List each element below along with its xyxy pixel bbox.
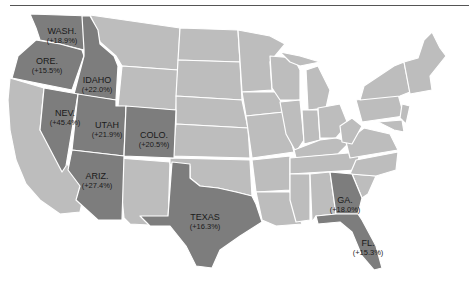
label-florida: FL. (+15.3%): [353, 238, 384, 258]
label-arizona: ARIZ. (+27.4%): [82, 171, 113, 191]
state-name: WASH.: [47, 26, 78, 36]
state-change: (+18.0%): [330, 205, 361, 215]
state-change: (+21.9%): [92, 130, 123, 140]
label-utah: UTAH (+21.9%): [92, 120, 123, 140]
state-name: ARIZ.: [82, 171, 113, 181]
state-north-dakota: [178, 28, 240, 62]
state-change: (+15.3%): [353, 248, 384, 258]
state-name: TEXAS: [190, 212, 221, 222]
state-name: NEV.: [50, 108, 81, 118]
state-michigan: [306, 66, 330, 110]
state-new-york: [360, 62, 410, 100]
state-change: (+16.3%): [190, 222, 221, 232]
state-indiana: [302, 110, 320, 144]
label-texas: TEXAS (+16.3%): [190, 212, 221, 232]
state-new-england: [404, 32, 446, 94]
state-arkansas: [252, 156, 290, 192]
state-change: (+15.5%): [32, 66, 63, 76]
state-change: (+45.4%): [50, 118, 81, 128]
state-wyoming: [118, 66, 178, 110]
label-nevada: NEV. (+45.4%): [50, 108, 81, 128]
state-kansas: [172, 124, 250, 158]
state-nebraska: [176, 96, 248, 128]
state-south-dakota: [176, 60, 242, 100]
label-washington: WASH. (+18.9%): [47, 26, 78, 46]
state-name: ORE.: [32, 56, 63, 66]
label-idaho: IDAHO (+22.0%): [82, 75, 113, 95]
state-name: UTAH: [92, 120, 123, 130]
state-change: (+18.9%): [47, 36, 78, 46]
label-georgia: GA. (+18.0%): [330, 195, 361, 215]
state-name: IDAHO: [82, 75, 113, 85]
state-change: (+20.5%): [139, 140, 170, 150]
state-name: FL.: [353, 238, 384, 248]
state-name: COLO.: [139, 130, 170, 140]
label-oregon: ORE. (+15.5%): [32, 56, 63, 76]
state-change: (+22.0%): [82, 85, 113, 95]
state-name: GA.: [330, 195, 361, 205]
state-change: (+27.4%): [82, 181, 113, 191]
state-maryland-delaware: [378, 120, 404, 132]
label-colorado: COLO. (+20.5%): [139, 130, 170, 150]
